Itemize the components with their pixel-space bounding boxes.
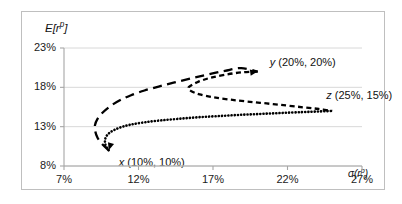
arrowhead-point-x: [108, 142, 114, 150]
frontier-curve-3: [105, 111, 332, 150]
frontier-curve-1: [95, 68, 258, 150]
chart-figure: E[rp] σ(rp) 8%13%18%23% 7%12%17%22%27% x…: [0, 0, 402, 204]
plot-area: [0, 0, 402, 204]
frontier-curves: [95, 68, 332, 150]
curve-arrowheads: [108, 69, 258, 150]
frontier-curve-2: [188, 72, 332, 111]
